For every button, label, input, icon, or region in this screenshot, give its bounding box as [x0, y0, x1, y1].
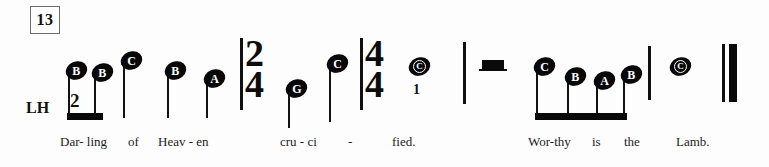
barline-4: [648, 46, 651, 100]
lyric-syllable: the: [624, 134, 640, 150]
note-letter: B: [72, 65, 80, 77]
rest-ledger-line: [479, 69, 507, 71]
notehead-c-n8[interactable]: C: [407, 55, 433, 78]
final-barline-thin: [722, 44, 725, 102]
note-letter: A: [210, 73, 219, 85]
lyric-syllable: is: [592, 134, 601, 150]
lyric-syllable: Heav - en: [158, 134, 209, 150]
time-signature-four-four: 44: [365, 38, 384, 100]
barline-2: [360, 38, 363, 110]
measure-number-label: 13: [37, 11, 54, 29]
note-letter: B: [98, 67, 106, 79]
note-letter: A: [600, 75, 609, 87]
lyric-syllable: Wor-thy: [528, 134, 571, 150]
fingering-n8: 1: [413, 82, 420, 98]
time-signature-denominator: 4: [245, 69, 264, 100]
note-stem-n3: [123, 60, 125, 118]
note-letter: C: [127, 55, 136, 67]
note-letter: B: [627, 69, 635, 81]
barline-3: [463, 42, 466, 104]
note-stem-n7: [329, 63, 331, 122]
barline-1: [240, 38, 243, 110]
note-letter: C: [540, 61, 549, 73]
final-barline-thick: [729, 44, 737, 102]
time-signature-denominator: 4: [365, 69, 384, 100]
lyric-syllable: fied.: [392, 134, 415, 150]
note-letter: B: [571, 71, 579, 83]
lyric-syllable: Lamb.: [676, 134, 710, 150]
lyric-syllable: Dar- ling: [60, 134, 107, 150]
time-signature-two-four: 24: [245, 38, 264, 100]
note-letter: G: [292, 83, 301, 95]
beam-group-2: [535, 113, 627, 120]
lyric-syllable: -: [348, 134, 352, 150]
note-letter: C: [333, 58, 342, 70]
note-letter: C: [413, 60, 426, 73]
fingering-start: 2: [70, 90, 80, 112]
hand-label-lh: LH: [26, 99, 49, 117]
measure-number-box: 13: [30, 6, 60, 34]
beam-group-1: [67, 113, 103, 120]
note-letter: C: [674, 60, 687, 73]
lyric-syllable: cru - ci: [280, 134, 317, 150]
note-letter: B: [171, 65, 179, 77]
music-staff-line: 13 LH 2 2444 BBCBAGCC1CBABC Dar- lingofH…: [0, 0, 769, 167]
lyric-syllable: of: [128, 134, 139, 150]
notehead-c-n13[interactable]: C: [668, 55, 694, 78]
